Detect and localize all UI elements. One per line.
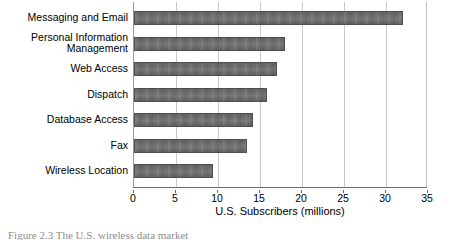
bar-row xyxy=(134,134,428,160)
bar-row xyxy=(134,6,428,32)
category-label: Fax xyxy=(0,140,128,152)
category-label: Database Access xyxy=(0,114,128,126)
bar-row xyxy=(134,159,428,185)
x-tick-label-5: 5 xyxy=(172,192,178,205)
bar-row xyxy=(134,83,428,109)
bar xyxy=(134,88,267,102)
x-tick-label-20: 20 xyxy=(295,192,307,205)
category-axis-labels: Messaging and EmailPersonal Information … xyxy=(0,2,128,188)
bar-row xyxy=(134,57,428,83)
category-label: Dispatch xyxy=(0,89,128,101)
bar-series xyxy=(134,2,426,187)
category-label: Web Access xyxy=(0,63,128,75)
bar xyxy=(134,11,403,25)
category-label: Personal Information Management xyxy=(0,32,128,55)
bar xyxy=(134,62,277,76)
bar-row xyxy=(134,32,428,58)
figure-bar-chart: Messaging and EmailPersonal Information … xyxy=(0,0,450,240)
x-tick-label-15: 15 xyxy=(253,192,265,205)
plot-area xyxy=(133,2,427,188)
bar xyxy=(134,113,253,127)
x-tick-label-10: 10 xyxy=(211,192,223,205)
category-label: Messaging and Email xyxy=(0,12,128,24)
x-tick-label-35: 35 xyxy=(421,192,433,205)
bar xyxy=(134,37,285,51)
x-tick-label-0: 0 xyxy=(130,192,136,205)
figure-caption: Figure 2.3 The U.S. wireless data market xyxy=(8,229,438,240)
x-axis-tick-labels: 05101520253035 xyxy=(133,190,427,205)
chart-area: Messaging and EmailPersonal Information … xyxy=(0,0,450,190)
bar-row xyxy=(134,108,428,134)
bar xyxy=(134,164,213,178)
bar xyxy=(134,139,247,153)
x-tick-label-25: 25 xyxy=(337,192,349,205)
x-axis-title: U.S. Subscribers (millions) xyxy=(133,205,427,217)
category-label: Wireless Location xyxy=(0,165,128,177)
x-tick-label-30: 30 xyxy=(379,192,391,205)
